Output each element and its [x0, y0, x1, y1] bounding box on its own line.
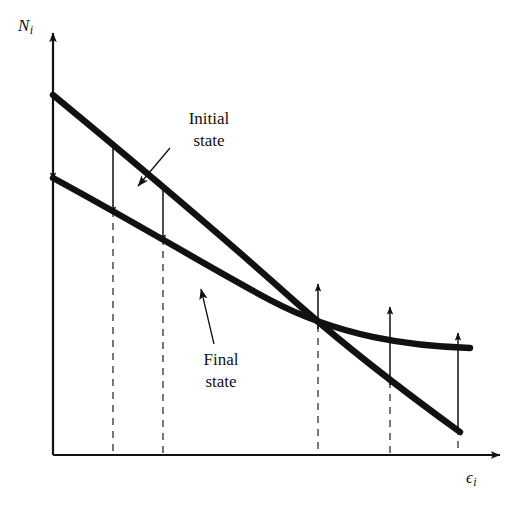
annotation-final-state: Final state: [175, 349, 267, 394]
figure-root: Ni ϵi Initial state Final state: [0, 0, 525, 525]
y-axis-label-subscript: i: [30, 23, 33, 37]
annotation-initial-state: Initial state: [163, 108, 255, 153]
figure-canvas: [0, 0, 525, 525]
x-axis-label-symbol: ϵ: [466, 468, 473, 487]
axis-group: [53, 33, 500, 455]
leader-line-final-state: [201, 289, 214, 344]
y-axis-label: Ni: [18, 16, 33, 38]
dashed-guide-group: [113, 210, 458, 454]
annotation-final-state-line1: Final: [175, 349, 267, 371]
x-axis-label-subscript: i: [473, 475, 476, 489]
y-axis-label-symbol: N: [18, 16, 29, 35]
x-axis-label: ϵi: [466, 468, 477, 490]
annotation-initial-state-line1: Initial: [163, 108, 255, 130]
annotation-initial-state-line2: state: [163, 130, 255, 152]
curve-final-state: [53, 178, 470, 348]
annotation-final-state-line2: state: [175, 371, 267, 393]
